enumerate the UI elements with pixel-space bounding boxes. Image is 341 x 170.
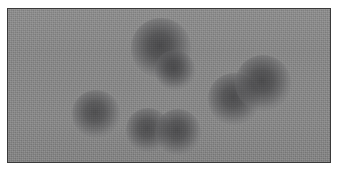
background-field (8, 9, 330, 162)
figure-root (0, 0, 341, 170)
micrograph-panel (7, 8, 331, 163)
micrograph-field (8, 9, 330, 162)
